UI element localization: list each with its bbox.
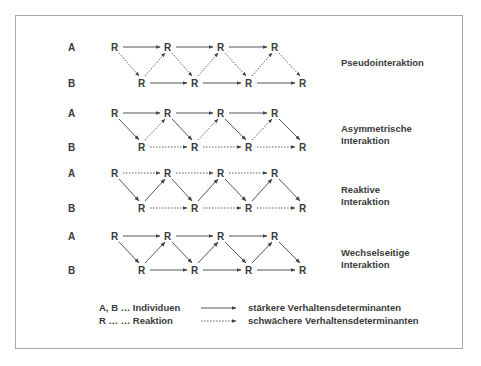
reaction-node-a: R xyxy=(271,42,279,53)
legend-key-0: A, B … Individuen xyxy=(99,302,180,313)
arrow-a-to-b xyxy=(172,119,192,140)
reaction-node-a: R xyxy=(217,42,225,53)
arrow-a-to-b xyxy=(119,242,139,263)
reaction-node-b: R xyxy=(138,142,146,153)
arrow-b-to-a xyxy=(145,119,165,140)
arrow-b-to-a xyxy=(198,179,218,201)
legend-text-dotted: schwächere Verhaltensdeterminanten xyxy=(248,315,419,326)
arrow-a-to-b xyxy=(119,119,139,140)
arrow-b-to-a xyxy=(198,119,218,140)
row-label-b: B xyxy=(68,265,75,276)
reaction-node-b: R xyxy=(245,78,253,89)
panel-title: Asymmetrische xyxy=(341,123,412,134)
reaction-node-b: R xyxy=(191,142,199,153)
row-label-b: B xyxy=(68,142,75,153)
reaction-node-a: R xyxy=(111,168,119,179)
reaction-node-b: R xyxy=(138,265,146,276)
arrow-a-to-b xyxy=(279,119,300,140)
legend-text-solid: stärkere Verhaltensdeterminanten xyxy=(248,302,401,313)
panel-title: Interaktion xyxy=(341,259,390,270)
reaction-node-b: R xyxy=(299,78,307,89)
reaction-node-b: R xyxy=(299,203,307,214)
panel-title: Wechselseitige xyxy=(341,247,409,258)
arrow-a-to-b xyxy=(225,53,246,76)
arrow-b-to-a xyxy=(145,179,165,201)
arrow-a-to-b xyxy=(172,179,192,201)
panel-title: Interaktion xyxy=(341,196,390,207)
arrow-b-to-a xyxy=(145,53,165,76)
reaction-node-a: R xyxy=(111,231,119,242)
arrow-a-to-b xyxy=(225,179,246,201)
row-label-a: A xyxy=(68,42,75,53)
interaction-diagram: ABRRRRRRRRPseudointeraktionABRRRRRRRRAsy… xyxy=(0,0,481,366)
arrow-b-to-a xyxy=(252,119,272,140)
panel-title: Pseudointeraktion xyxy=(341,57,424,68)
reaction-node-a: R xyxy=(217,168,225,179)
panel-title: Reaktive xyxy=(341,184,380,195)
arrow-a-to-b xyxy=(279,242,300,263)
arrow-b-to-a xyxy=(198,53,218,76)
arrow-a-to-b xyxy=(172,242,192,263)
reaction-node-b: R xyxy=(245,265,253,276)
reaction-node-b: R xyxy=(299,142,307,153)
arrow-a-to-b xyxy=(119,53,139,76)
arrow-b-to-a xyxy=(252,179,272,201)
reaction-node-a: R xyxy=(271,231,279,242)
panel-title: Interaktion xyxy=(341,135,390,146)
row-label-b: B xyxy=(68,78,75,89)
reaction-node-b: R xyxy=(191,203,199,214)
panel-reactive: ABRRRRRRRRReaktiveInteraktion xyxy=(68,168,390,214)
arrow-b-to-a xyxy=(145,242,165,263)
arrow-a-to-b xyxy=(279,53,300,76)
arrow-b-to-a xyxy=(252,53,272,76)
row-label-a: A xyxy=(68,231,75,242)
arrow-a-to-b xyxy=(225,119,246,140)
reaction-node-b: R xyxy=(191,78,199,89)
arrow-a-to-b xyxy=(279,179,300,201)
reaction-node-a: R xyxy=(164,231,172,242)
panel-asymmetric: ABRRRRRRRRAsymmetrischeInteraktion xyxy=(68,108,412,153)
legend-key-1: R … … Reaktion xyxy=(99,315,173,326)
arrow-a-to-b xyxy=(172,53,192,76)
row-label-a: A xyxy=(68,108,75,119)
reaction-node-a: R xyxy=(271,108,279,119)
row-label-a: A xyxy=(68,168,75,179)
reaction-node-b: R xyxy=(299,265,307,276)
reaction-node-b: R xyxy=(245,142,253,153)
reaction-node-a: R xyxy=(111,42,119,53)
reaction-node-a: R xyxy=(164,168,172,179)
reaction-node-a: R xyxy=(271,168,279,179)
reaction-node-b: R xyxy=(138,78,146,89)
reaction-node-b: R xyxy=(245,203,253,214)
panel-mutual: ABRRRRRRRRWechselseitigeInteraktion xyxy=(68,231,409,276)
arrow-a-to-b xyxy=(119,179,139,201)
reaction-node-b: R xyxy=(191,265,199,276)
panel-pseudo: ABRRRRRRRRPseudointeraktion xyxy=(68,42,424,89)
reaction-node-a: R xyxy=(217,108,225,119)
reaction-node-b: R xyxy=(138,203,146,214)
arrow-a-to-b xyxy=(225,242,246,263)
reaction-node-a: R xyxy=(217,231,225,242)
reaction-node-a: R xyxy=(164,42,172,53)
arrow-b-to-a xyxy=(252,242,272,263)
reaction-node-a: R xyxy=(111,108,119,119)
arrow-b-to-a xyxy=(198,242,218,263)
reaction-node-a: R xyxy=(164,108,172,119)
row-label-b: B xyxy=(68,203,75,214)
